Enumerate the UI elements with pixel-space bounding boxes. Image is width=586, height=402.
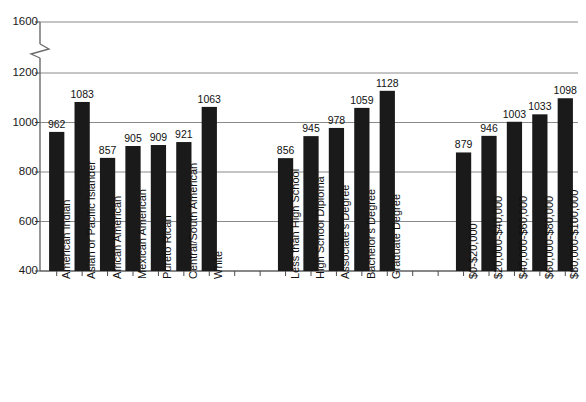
bar-value-label: 946 bbox=[467, 123, 511, 134]
y-axis-tick-labels: 400600800100012001600 bbox=[0, 0, 38, 402]
x-axis-label: Mexican American bbox=[137, 189, 148, 279]
x-axis-label: Associate's Degree bbox=[340, 185, 351, 279]
x-axis-label: $0-$20,000 bbox=[468, 223, 479, 279]
bar-value-label: 1128 bbox=[365, 78, 409, 89]
x-axis-label: $80,000-$100,000 bbox=[569, 190, 580, 279]
bar-chart: 400600800100012001600 962108385790590992… bbox=[0, 0, 586, 402]
x-axis-label: Bachelor's Degree bbox=[366, 189, 377, 279]
x-axis-label: $60,000-$80,000 bbox=[544, 196, 555, 279]
x-axis-label: African American bbox=[112, 196, 123, 279]
x-axis-label: $40,000-$60,000 bbox=[518, 196, 529, 279]
bar-value-label: 921 bbox=[162, 129, 206, 140]
bar-value-label: 1059 bbox=[340, 95, 384, 106]
x-axis-label: $20,000-$40,000 bbox=[493, 196, 504, 279]
bar-value-label: 1083 bbox=[60, 89, 104, 100]
x-axis-label: American Indian bbox=[61, 200, 72, 280]
x-axis-label: Graduate Degree bbox=[391, 194, 402, 279]
y-axis-label: 600 bbox=[4, 216, 38, 228]
bar-value-label: 1098 bbox=[543, 85, 586, 96]
x-axis-label: Pureto Rican bbox=[162, 215, 173, 279]
bar-value-label: 962 bbox=[35, 119, 79, 130]
bar-value-label: 978 bbox=[314, 115, 358, 126]
bar-value-label: 1063 bbox=[187, 94, 231, 105]
x-axis-label: White bbox=[213, 251, 224, 279]
y-axis-label: 1600 bbox=[4, 16, 38, 28]
y-axis-label: 1200 bbox=[4, 67, 38, 79]
bar-value-label: 857 bbox=[86, 145, 130, 156]
x-axis-label: Asian or Pacific Islander bbox=[86, 161, 97, 279]
bar-value-label: 856 bbox=[264, 145, 308, 156]
x-axis-label: High School Diploma bbox=[315, 176, 326, 279]
y-axis-label: 400 bbox=[4, 265, 38, 277]
bar-value-label: 879 bbox=[442, 139, 486, 150]
x-axis-label: Central/South American bbox=[188, 163, 199, 279]
bar-value-label: 1033 bbox=[518, 101, 562, 112]
y-axis-label: 800 bbox=[4, 166, 38, 178]
x-axis-label: Less than High School bbox=[290, 169, 301, 279]
y-axis-label: 1000 bbox=[4, 117, 38, 129]
